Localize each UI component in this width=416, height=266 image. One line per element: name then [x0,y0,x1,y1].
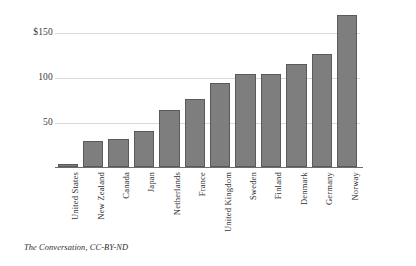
figure-caption: The Conversation, CC-BY-ND [24,243,128,252]
x-axis-label: France [198,172,207,196]
x-axis-label: New Zealand [97,172,106,220]
x-axis-label: United Kingdom [224,172,233,232]
x-axis-label: Denmark [300,172,309,205]
x-axis-label: Finland [274,172,283,199]
x-axis-label: Canada [122,172,131,199]
bar [312,54,332,167]
plot-area [55,8,360,167]
bar [210,83,230,167]
x-axis-label: Norway [351,172,360,201]
x-axis-label: Sweden [249,172,258,200]
x-axis-label: Germany [325,172,334,205]
x-axis-line [55,167,363,168]
y-tick-label-50: 50 [43,118,53,128]
bar [235,74,255,167]
x-axis-label: Japan [147,172,156,192]
bar [337,15,357,167]
y-tick-label-150: $150 [33,28,53,38]
x-axis-label: Netherlands [173,172,182,215]
y-tick-label-100: 100 [38,73,53,83]
bar [286,64,306,167]
bar [185,99,205,167]
x-axis-label: United States [71,172,80,220]
gridline-150 [55,33,360,34]
bar [134,131,154,167]
bar-chart-figure: $150 100 50 United StatesNew ZealandCana… [0,0,416,266]
bar [261,74,281,167]
bar [108,139,128,167]
bar [159,110,179,167]
bar [83,141,103,167]
